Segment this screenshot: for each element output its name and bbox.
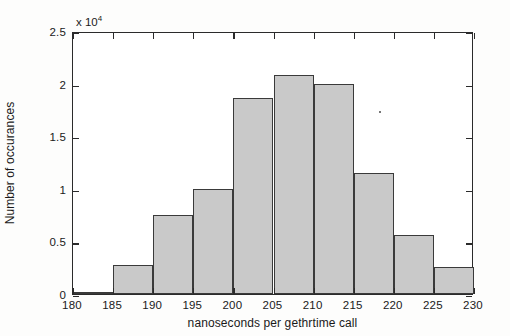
y-axis-tick [466, 191, 472, 192]
x-axis-tick [233, 288, 234, 294]
x-axis-tick [434, 33, 435, 39]
y-axis-tick [73, 243, 79, 244]
x-axis-tick [354, 33, 355, 39]
x-axis-title: nanoseconds per gethrtime call [72, 316, 473, 330]
y-axis-tick [466, 33, 472, 34]
y-axis-tick-label: 0.5 [49, 236, 66, 248]
y-axis-tick [73, 86, 79, 87]
histogram-bar [354, 173, 394, 294]
x-axis-tick [73, 288, 74, 294]
y-axis-tick [73, 33, 79, 34]
y-axis-tick-label: 1.5 [49, 131, 66, 143]
histogram-figure: x 104 180185190195200205210215220225230 … [0, 0, 510, 336]
y-axis-title: Number of occurances [3, 102, 17, 225]
x-axis-tick [474, 33, 475, 39]
y-axis-exponent-power: 4 [98, 14, 102, 23]
y-axis-exponent-prefix: x 10 [76, 16, 98, 28]
x-axis-tick [394, 288, 395, 294]
x-axis-tick [434, 288, 435, 294]
histogram-bar [274, 75, 314, 294]
histogram-bar [73, 292, 113, 294]
y-axis-tick [466, 138, 472, 139]
x-axis-tick [394, 33, 395, 39]
x-axis-tick-label: 215 [343, 299, 363, 311]
x-axis-tick-label: 200 [222, 299, 242, 311]
y-axis-tick [73, 138, 79, 139]
y-axis-tick-label: 2.5 [49, 26, 66, 38]
x-axis-tick [354, 288, 355, 294]
x-axis-tick [274, 33, 275, 39]
x-axis-tick [113, 33, 114, 39]
y-axis-tick [466, 296, 472, 297]
x-axis-tick-label: 225 [423, 299, 443, 311]
histogram-bar [394, 235, 434, 294]
histogram-bar [233, 98, 273, 294]
x-axis-tick [193, 33, 194, 39]
x-axis-tick-label: 210 [303, 299, 323, 311]
scan-artifact-speck [379, 111, 381, 113]
x-axis-tick [314, 288, 315, 294]
y-axis-exponent-label: x 104 [76, 14, 102, 28]
x-axis-tick [314, 33, 315, 39]
x-axis-tick [153, 288, 154, 294]
histogram-bars [73, 33, 472, 294]
histogram-bar [193, 189, 233, 294]
histogram-bar [314, 84, 354, 294]
x-axis-tick [193, 288, 194, 294]
x-axis-tick-label: 205 [263, 299, 283, 311]
x-axis-tick [474, 288, 475, 294]
x-axis-tick-label: 185 [102, 299, 122, 311]
x-axis-tick-label: 190 [142, 299, 162, 311]
x-axis-tick [113, 288, 114, 294]
x-axis-tick-label: 230 [463, 299, 483, 311]
x-axis-tick [153, 33, 154, 39]
histogram-bar [153, 215, 193, 294]
x-axis-tick [233, 33, 234, 39]
x-axis-tick-label: 195 [182, 299, 202, 311]
x-axis-tick-label: 220 [383, 299, 403, 311]
y-axis-tick [73, 296, 79, 297]
x-axis-tick [274, 288, 275, 294]
y-axis-tick-label: 2 [59, 79, 66, 91]
histogram-bar [113, 265, 153, 294]
y-axis-tick [73, 191, 79, 192]
y-axis-tick-label: 0 [59, 289, 66, 301]
y-axis-tick [466, 86, 472, 87]
plot-area [72, 32, 473, 295]
histogram-bar [434, 267, 474, 294]
y-axis-tick-label: 1 [59, 184, 66, 196]
y-axis-tick [466, 243, 472, 244]
